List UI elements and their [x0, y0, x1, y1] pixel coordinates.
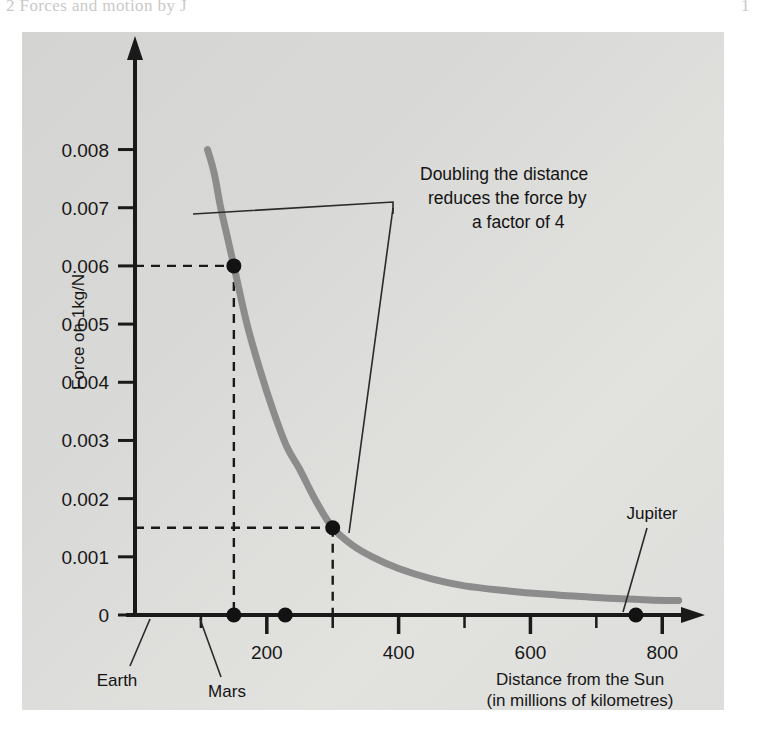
x-tick-label-1: 400	[383, 642, 415, 663]
x-axis-arrow	[681, 607, 705, 623]
label-earth: Earth	[97, 671, 138, 690]
figure-panel: 00.0010.0020.0030.0040.0050.0060.0070.00…	[22, 32, 724, 710]
force-curve	[208, 150, 679, 601]
annotation-text: Doubling the distance reduces the force …	[420, 164, 588, 232]
crop-text-right: 1	[741, 0, 750, 16]
leader-line-to-second-point	[349, 208, 393, 533]
label-mars: Mars	[208, 682, 246, 701]
guide-lines	[135, 266, 333, 615]
y-tick-label-2: 0.002	[61, 489, 109, 510]
page-crop-text: 2 Forces and motion by J 1	[0, 0, 760, 26]
annotation-line-2: reduces the force by	[428, 188, 587, 208]
x-tick-label-3: 800	[646, 642, 678, 663]
force-vs-distance-chart: 00.0010.0020.0030.0040.0050.0060.0070.00…	[22, 32, 724, 710]
marker-point-at-double-distance	[325, 520, 340, 535]
y-tick-label-8: 0.008	[61, 140, 109, 161]
label-jupiter: Jupiter	[626, 504, 677, 523]
y-tick-label-7: 0.007	[61, 198, 109, 219]
data-point-markers	[226, 258, 643, 622]
leader-line-mars	[200, 619, 221, 677]
y-tick-label-6: 0.006	[61, 256, 109, 277]
y-axis-arrow	[127, 36, 143, 60]
marker-point-at-earth-distance	[226, 258, 241, 273]
x-axis-ticks: 200400600800	[201, 615, 678, 663]
x-axis-title: Distance from the Sun	[496, 670, 664, 689]
marker-jupiter-marker	[628, 608, 643, 623]
x-tick-label-2: 600	[515, 642, 547, 663]
leader-line-earth	[130, 619, 150, 666]
annotation-leader-lines	[193, 202, 393, 533]
axes	[126, 36, 705, 623]
y-axis-title: Force on 1kg/N	[69, 274, 88, 390]
y-tick-label-1: 0.001	[61, 547, 109, 568]
marker-earth-marker	[226, 608, 241, 623]
x-axis-subtitle: (in millions of kilometres)	[486, 691, 673, 710]
marker-mars-marker	[278, 608, 293, 623]
crop-text-left: 2 Forces and motion by J	[6, 0, 187, 16]
annotation-line-1: Doubling the distance	[420, 164, 588, 184]
y-tick-label-3: 0.003	[61, 430, 109, 451]
x-tick-label-0: 200	[251, 642, 283, 663]
y-tick-label-0: 0	[98, 605, 109, 626]
annotation-line-3: a factor of 4	[472, 212, 565, 232]
